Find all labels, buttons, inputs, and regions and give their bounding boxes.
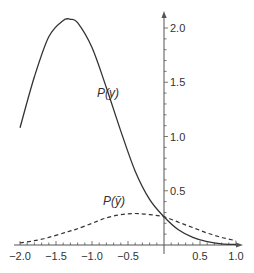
x-tick-label: −2.0 xyxy=(9,250,31,262)
label-p-ybar: P(ȳ) xyxy=(103,194,125,208)
series-p-ybar-line xyxy=(20,214,236,243)
chart: −2.0−1.5−1.0−0.50.51.00.51.01.52.0 P(y)P… xyxy=(0,0,254,273)
series-p-y-line xyxy=(20,19,236,245)
series-group xyxy=(20,19,236,245)
labels-group: P(y)P(ȳ) xyxy=(97,86,125,208)
y-tick-label: 1.5 xyxy=(170,76,185,88)
y-tick-label: 0.5 xyxy=(170,185,185,197)
y-tick-label: 2.0 xyxy=(170,22,185,34)
label-p-y: P(y) xyxy=(97,86,119,100)
x-tick-label: 1.0 xyxy=(228,250,243,262)
y-tick-label: 1.0 xyxy=(170,131,185,143)
x-axis-arrow-icon xyxy=(236,243,243,248)
x-tick-label: 0.5 xyxy=(192,250,207,262)
x-tick-label: −0.5 xyxy=(117,250,139,262)
x-tick-label: −1.0 xyxy=(81,250,103,262)
x-tick-label: −1.5 xyxy=(45,250,67,262)
